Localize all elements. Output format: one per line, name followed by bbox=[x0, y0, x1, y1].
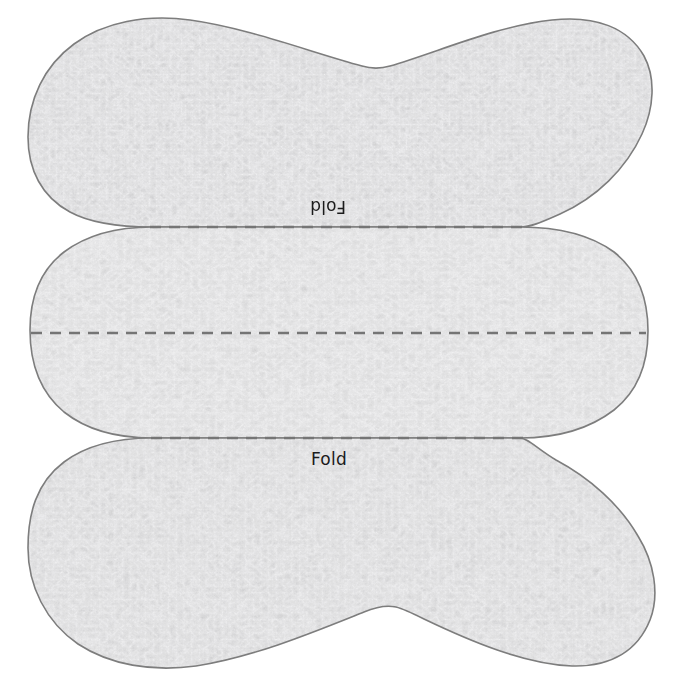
fold-label-bottom: Fold bbox=[311, 451, 347, 468]
pattern-section-middle bbox=[0, 210, 674, 460]
pattern-canvas: Fold Fold bbox=[0, 0, 674, 686]
pattern-section-top bbox=[0, 0, 674, 260]
middle-section-texture bbox=[0, 210, 674, 460]
fold-label-top: Fold bbox=[310, 198, 346, 215]
top-section-texture bbox=[0, 0, 674, 260]
pattern-template-graphic bbox=[0, 0, 674, 686]
